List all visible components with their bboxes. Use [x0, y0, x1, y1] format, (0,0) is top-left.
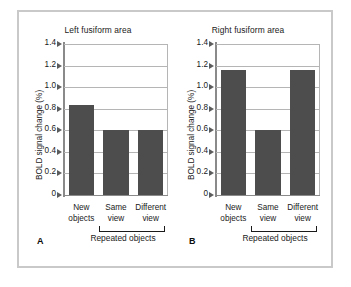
y-tick-label: 0.2: [45, 167, 56, 176]
y-tick-mark: [57, 41, 62, 47]
bar: [255, 130, 281, 195]
bar: [69, 105, 95, 195]
y-tick-mark: [209, 149, 214, 155]
panel-b-y-axis-label: BOLD signal change (%): [187, 90, 196, 180]
y-tick-mark: [209, 170, 214, 176]
y-tick-label: 0.2: [197, 167, 208, 176]
bar: [290, 70, 316, 195]
y-tick-label: 1.0: [197, 81, 208, 90]
y-tick-mark: [209, 84, 214, 90]
gridline: [216, 44, 320, 45]
panel-a-letter: A: [37, 236, 44, 246]
y-tick-label: 0.8: [197, 103, 208, 112]
y-tick-label: 0.8: [45, 103, 56, 112]
y-tick-label: 1.2: [197, 60, 208, 69]
y-tick-label: 0: [203, 189, 208, 198]
y-tick-label: 1.4: [197, 38, 208, 47]
gridline: [216, 66, 320, 67]
panel-a-y-axis-label: BOLD signal change (%): [35, 90, 44, 180]
y-tick-label: 0.4: [45, 146, 56, 155]
y-tick-label: 0.6: [197, 124, 208, 133]
panel-a-title: Left fusiform area: [19, 25, 177, 35]
y-tick-mark: [57, 149, 62, 155]
bar: [103, 130, 129, 195]
x-tick-label-line: view: [281, 214, 324, 225]
gridline: [64, 66, 168, 67]
y-tick-label: 0.6: [45, 124, 56, 133]
y-tick-mark: [57, 84, 62, 90]
y-tick-mark: [57, 63, 62, 69]
y-tick-label: 1.4: [45, 38, 56, 47]
y-tick-label: 0.4: [197, 146, 208, 155]
y-tick-label: 1.2: [45, 60, 56, 69]
y-tick-mark: [209, 192, 214, 198]
panel-a-x-axis-line: [63, 195, 168, 196]
chart-panel-b: Right fusiform area BOLD signal change (…: [169, 12, 327, 266]
gridline: [64, 44, 168, 45]
figure-frame: Left fusiform area BOLD signal change (%…: [17, 10, 333, 268]
panel-a-plot-area: 00.20.40.60.81.01.21.4 NewobjectsSamevie…: [64, 44, 168, 195]
panel-b-x-tick-labels: NewobjectsSameviewDifferentview: [216, 199, 320, 229]
panel-b-title: Right fusiform area: [169, 25, 327, 35]
panel-a-bracket-label: Repeated objects: [73, 233, 173, 243]
y-tick-mark: [209, 41, 214, 47]
x-tick-label: Differentview: [281, 203, 324, 224]
x-tick-label-line: view: [129, 214, 172, 225]
bar: [221, 70, 247, 195]
y-tick-mark: [209, 63, 214, 69]
panel-b-x-axis-line: [215, 195, 320, 196]
y-tick-mark: [57, 106, 62, 112]
x-tick-label: Differentview: [129, 203, 172, 224]
panel-b-bracket: [251, 226, 317, 232]
y-tick-mark: [57, 192, 62, 198]
panel-b-plot-area: 00.20.40.60.81.01.21.4 NewobjectsSamevie…: [216, 44, 320, 195]
y-tick-label: 0: [51, 189, 56, 198]
y-tick-mark: [57, 127, 62, 133]
y-tick-mark: [209, 127, 214, 133]
y-tick-mark: [209, 106, 214, 112]
panel-b-bracket-label: Repeated objects: [225, 233, 325, 243]
panel-b-letter: B: [189, 236, 196, 246]
y-tick-label: 1.0: [45, 81, 56, 90]
panel-a-bracket: [99, 226, 165, 232]
gridline: [64, 87, 168, 88]
x-tick-label-line: Different: [281, 203, 324, 214]
panel-a-x-tick-labels: NewobjectsSameviewDifferentview: [64, 199, 168, 229]
x-tick-label-line: Different: [129, 203, 172, 214]
chart-panel-a: Left fusiform area BOLD signal change (%…: [19, 12, 177, 266]
y-tick-mark: [57, 170, 62, 176]
bar: [138, 130, 164, 195]
